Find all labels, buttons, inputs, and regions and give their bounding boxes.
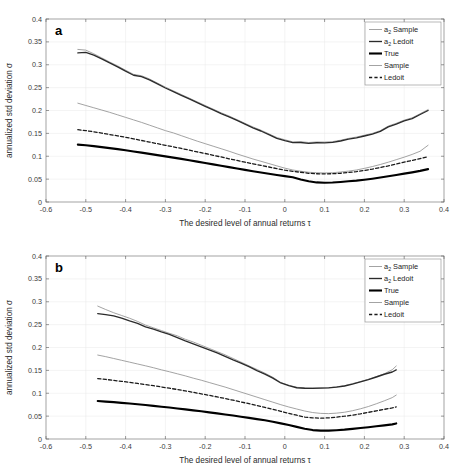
xtick-label: -0.5 — [80, 442, 92, 451]
legend-name: Sample — [391, 262, 418, 271]
ytick-label: 0.25 — [28, 320, 42, 329]
ytick-label: 0.4 — [32, 15, 42, 24]
ytick-label: 0.15 — [28, 129, 42, 138]
xtick-label: -0.5 — [80, 205, 92, 214]
xtick-label: -0.4 — [119, 205, 131, 214]
xtick-label: 0.3 — [399, 442, 409, 451]
xtick-label: -0.1 — [239, 205, 251, 214]
xtick-label: -0.3 — [159, 442, 171, 451]
legend-name: Ledoit — [391, 37, 413, 46]
xtick-label: 0 — [283, 205, 287, 214]
ytick-label: 0 — [38, 435, 42, 444]
ytick-label: 0.2 — [32, 106, 42, 115]
legend-label-2: True — [384, 286, 399, 295]
ytick-label: 0.4 — [32, 252, 42, 261]
xtick-label: 0.2 — [359, 442, 369, 451]
ytick-label: 0.25 — [28, 83, 42, 92]
xtick-label: 0 — [283, 442, 287, 451]
x-axis-title: The desired level of annual returns τ — [179, 456, 311, 465]
legend-name: Sample — [391, 25, 418, 34]
ytick-label: 0.2 — [32, 343, 42, 352]
legend-label-4: Ledoit — [384, 73, 404, 82]
ytick-label: 0.1 — [32, 389, 42, 398]
ytick-label: 0.35 — [28, 37, 42, 46]
ytick-label: 0.3 — [32, 60, 42, 69]
ytick-label: 0.35 — [28, 274, 42, 283]
chart-panel-b: -0.6-0.5-0.4-0.3-0.2-0.100.10.20.30.400.… — [0, 237, 461, 474]
xtick-label: 0.3 — [399, 205, 409, 214]
chart-svg-b: -0.6-0.5-0.4-0.3-0.2-0.100.10.20.30.400.… — [0, 237, 461, 474]
chart-panel-a: -0.6-0.5-0.4-0.3-0.2-0.100.10.20.30.400.… — [0, 0, 461, 237]
ytick-label: 0.1 — [32, 152, 42, 161]
legend: a2 Samplea2 LedoitTrueSampleLedoit — [365, 259, 441, 322]
legend: a2 Samplea2 LedoitTrueSampleLedoit — [365, 22, 441, 85]
series-line-sample — [78, 103, 428, 173]
figure-container: -0.6-0.5-0.4-0.3-0.2-0.100.10.20.30.400.… — [0, 0, 461, 474]
legend-name: Ledoit — [391, 274, 413, 283]
legend-label-4: Ledoit — [384, 310, 404, 319]
xtick-label: 0.4 — [439, 442, 449, 451]
xtick-label: -0.1 — [239, 442, 251, 451]
series-line-true — [98, 401, 397, 431]
xtick-label: 0.2 — [359, 205, 369, 214]
chart-svg-a: -0.6-0.5-0.4-0.3-0.2-0.100.10.20.30.400.… — [0, 0, 461, 237]
ytick-label: 0.05 — [28, 175, 42, 184]
xtick-label: -0.3 — [159, 205, 171, 214]
xtick-label: 0.1 — [320, 442, 330, 451]
y-axis-title: annualized std deviation σ — [5, 63, 14, 158]
xtick-label: -0.2 — [199, 442, 211, 451]
xtick-label: 0.4 — [439, 205, 449, 214]
ytick-label: 0.05 — [28, 412, 42, 421]
x-axis-title: The desired level of annual returns τ — [179, 219, 311, 228]
y-axis-title: annualized std deviation σ — [5, 300, 14, 395]
ytick-label: 0.15 — [28, 366, 42, 375]
ytick-label: 0 — [38, 198, 42, 207]
ytick-label: 0.3 — [32, 297, 42, 306]
panel-letter-a: a — [55, 23, 63, 38]
xtick-label: -0.2 — [199, 205, 211, 214]
xtick-label: -0.4 — [119, 442, 131, 451]
legend-label-3: Sample — [384, 61, 409, 70]
xtick-label: 0.1 — [320, 205, 330, 214]
series-line-a-2-sample — [98, 306, 397, 388]
legend-label-3: Sample — [384, 298, 409, 307]
legend-label-2: True — [384, 49, 399, 58]
panel-letter-b: b — [55, 260, 63, 275]
